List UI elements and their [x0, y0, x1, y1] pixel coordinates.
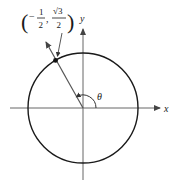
- point-on-circle: [53, 58, 58, 63]
- x-numerator: 1: [39, 7, 44, 17]
- theta-label: θ: [97, 91, 102, 102]
- x-denominator: 2: [39, 20, 44, 30]
- point-label: ( − 1 2 , √3 2 ): [21, 6, 74, 34]
- x-sign: −: [29, 11, 35, 22]
- separator: ,: [46, 13, 49, 24]
- y-numerator: √3: [53, 6, 63, 16]
- open-paren: (: [21, 9, 28, 34]
- x-axis-label: x: [163, 103, 169, 114]
- close-paren: ): [67, 9, 74, 34]
- y-denominator: 2: [57, 20, 62, 30]
- unit-circle-diagram: ( − 1 2 , √3 2 ) y x θ: [0, 0, 176, 184]
- terminal-ray: [46, 42, 83, 108]
- y-axis-label: y: [79, 13, 85, 24]
- label-pointer: [58, 33, 63, 56]
